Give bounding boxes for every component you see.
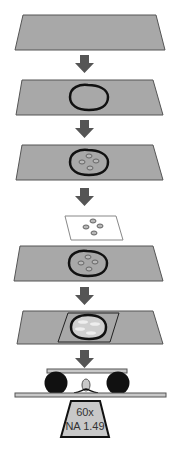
down-arrow-icon (75, 120, 94, 138)
down-arrow-icon (75, 287, 94, 305)
slide-with-coverslip (17, 311, 163, 344)
spacer-left (45, 372, 68, 395)
cell-outline (71, 315, 106, 339)
bottom-coverslip-bar (15, 393, 166, 397)
slide-cell-particles-2 (14, 246, 163, 281)
down-arrow-icon (75, 188, 94, 206)
down-arrow-icon (75, 55, 94, 73)
objective-magnification: 60x (76, 406, 94, 418)
coverslip (65, 216, 123, 240)
spacer-right (107, 372, 130, 395)
slide-empty (15, 15, 165, 50)
objective-na: NA 1.49 (65, 420, 104, 432)
objective-lens: 60x NA 1.49 (61, 401, 109, 437)
workflow-diagram: 60x NA 1.49 (0, 0, 176, 451)
slide-cell-outline (16, 80, 163, 115)
imaging-setup (15, 369, 166, 397)
down-arrow-icon (75, 350, 94, 368)
slide-cell-particles (16, 145, 163, 180)
